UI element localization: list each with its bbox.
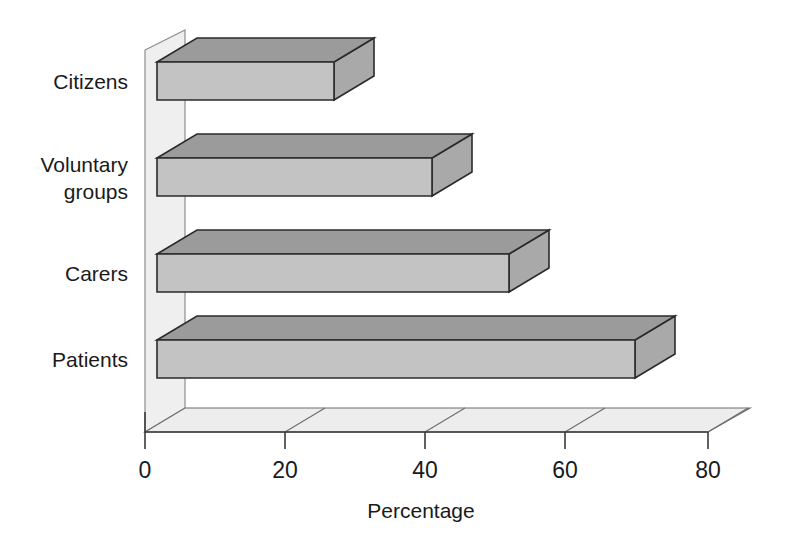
- x-tick-label-80: 80: [695, 457, 721, 483]
- x-tick-label-0: 0: [139, 457, 152, 483]
- category-label-voluntary-line2: groups: [64, 180, 128, 203]
- bar-voluntary-groups[interactable]: [157, 134, 472, 196]
- category-label-citizens: Citizens: [53, 70, 128, 93]
- x-axis-title: Percentage: [367, 499, 474, 522]
- chart-container: 0 20 40 60 80 Percentage Citizens Volunt…: [0, 0, 787, 539]
- category-label-carers: Carers: [65, 262, 128, 285]
- bar-patients[interactable]: [157, 316, 675, 378]
- x-tick-label-20: 20: [272, 457, 298, 483]
- bar-chart-3d: 0 20 40 60 80 Percentage Citizens Volunt…: [0, 0, 787, 539]
- category-label-patients: Patients: [52, 348, 128, 371]
- x-axis-ticks: [145, 432, 708, 449]
- chart-floor: [145, 408, 750, 432]
- bar-carers[interactable]: [157, 230, 549, 292]
- x-tick-label-60: 60: [552, 457, 578, 483]
- x-tick-label-40: 40: [412, 457, 438, 483]
- bar-citizens[interactable]: [157, 38, 374, 100]
- category-label-voluntary-line1: Voluntary: [40, 153, 128, 176]
